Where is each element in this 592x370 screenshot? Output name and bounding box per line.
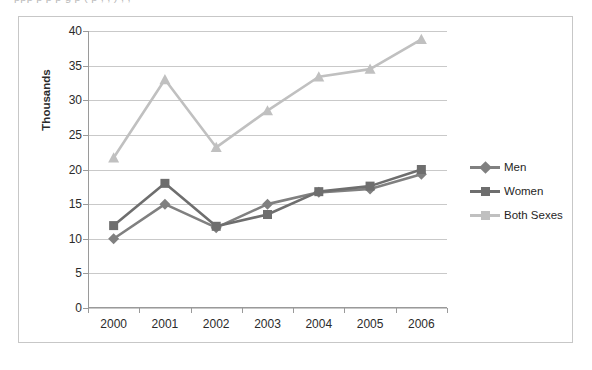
y-axis-tick-label: 40 [56,24,82,38]
plot-area [88,31,447,308]
data-point-marker [160,179,169,188]
legend-item-women[interactable]: Women [470,179,566,203]
series-line [114,39,422,157]
data-point-marker [314,187,323,196]
data-point-marker [417,165,426,174]
data-point-marker [212,222,221,231]
y-axis-tick-label: 10 [56,232,82,246]
y-axis-tick-label: 25 [56,128,82,142]
legend-label: Both Sexes [504,209,563,221]
data-point-marker [159,74,170,84]
series-women [109,165,426,231]
clipped-header-text: ppp p p p g p ( p , , ) , , [14,0,131,3]
y-axis-tick-label: 5 [56,266,82,280]
x-axis-tickmark [293,308,294,313]
chart-legend: MenWomenBoth Sexes [470,155,566,227]
x-axis-tick-label: 2002 [203,317,230,331]
legend-swatch [470,160,500,174]
data-point-marker [416,34,427,44]
y-axis-tick-label: 30 [56,93,82,107]
x-axis-ticks: 2000200120022003200420052006 [88,308,447,338]
legend-marker-square-icon [481,187,490,196]
x-axis-tickmark [191,308,192,313]
x-axis-tickmark [242,308,243,313]
x-axis-tick-label: 2006 [408,317,435,331]
x-axis-tickmark [88,308,89,313]
x-axis-tickmark [139,308,140,313]
series-both-sexes [108,34,427,163]
x-axis-tickmark [447,308,448,313]
x-axis-tick-label: 2001 [152,317,179,331]
data-point-marker [109,221,118,230]
x-axis-tick-label: 2000 [100,317,127,331]
x-axis-tickmark [396,308,397,313]
y-axis-tick-label: 15 [56,197,82,211]
clipped-header-text-strip: ppp p p p g p ( p , , ) , , [0,0,592,14]
x-axis-tick-label: 2005 [357,317,384,331]
data-point-marker [262,199,273,210]
legend-marker-triangle-icon [481,211,490,220]
data-point-marker [263,210,272,219]
x-axis-tick-label: 2004 [305,317,332,331]
x-axis-tick-label: 2003 [254,317,281,331]
legend-swatch [470,208,500,222]
legend-item-both-sexes[interactable]: Both Sexes [470,203,566,227]
legend-swatch [470,184,500,198]
y-axis-tick-label: 20 [56,163,82,177]
y-axis-tick-label: 0 [56,301,82,315]
legend-marker-diamond-icon [479,161,492,174]
y-axis-tick-label: 35 [56,59,82,73]
series-layer [88,31,447,308]
y-axis-ticks: 0510152025303540 [50,31,82,308]
legend-label: Men [504,161,526,173]
legend-label: Women [504,185,543,197]
data-point-marker [366,182,375,191]
legend-item-men[interactable]: Men [470,155,566,179]
x-axis-tickmark [344,308,345,313]
series-men [108,169,427,244]
